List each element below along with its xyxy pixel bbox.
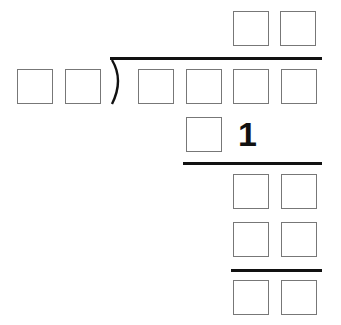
step1-remainder-digit-2[interactable] <box>281 174 317 209</box>
dividend-digit-2[interactable] <box>186 69 222 104</box>
dividend-digit-1[interactable] <box>138 69 174 104</box>
divisor-digit-1[interactable] <box>17 69 53 104</box>
final-remainder-digit-1[interactable] <box>233 280 269 315</box>
step1-remainder-digit-1[interactable] <box>233 174 269 209</box>
dividend-digit-4[interactable] <box>281 69 317 104</box>
division-bar <box>110 57 322 60</box>
dividend-digit-3[interactable] <box>233 69 269 104</box>
division-bracket <box>108 58 126 106</box>
divisor-digit-2[interactable] <box>65 69 101 104</box>
quotient-digit-2[interactable] <box>280 11 316 46</box>
final-remainder-digit-2[interactable] <box>281 280 317 315</box>
step1-product-digit-1[interactable] <box>186 117 222 152</box>
step1-product-digit-2: 1 <box>238 117 257 151</box>
subtraction-line-1 <box>183 162 322 165</box>
step2-product-digit-1[interactable] <box>233 222 269 257</box>
step2-product-digit-2[interactable] <box>281 222 317 257</box>
quotient-digit-1[interactable] <box>233 11 269 46</box>
subtraction-line-2 <box>231 269 322 272</box>
